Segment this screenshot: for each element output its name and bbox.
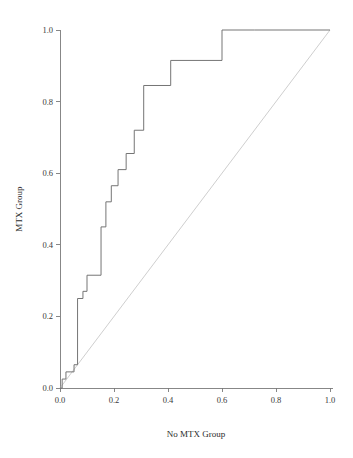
axes-group xyxy=(60,30,333,388)
y-axis-tick-labels: 0.00.20.40.60.81.0 xyxy=(42,25,53,393)
y-tick-label: 0.2 xyxy=(42,311,53,321)
y-tick-label: 0.4 xyxy=(42,240,53,250)
y-tick-label: 0.0 xyxy=(42,383,53,393)
x-tick-label: 0.4 xyxy=(163,395,174,405)
x-axis-ticks xyxy=(60,388,330,392)
x-tick-label: 0.6 xyxy=(217,395,228,405)
y-tick-label: 1.0 xyxy=(42,25,53,35)
x-tick-label: 1.0 xyxy=(325,395,336,405)
y-axis-title: MTX Group xyxy=(14,186,24,232)
x-axis-title: No MTX Group xyxy=(167,429,226,439)
x-axis-tick-labels: 0.00.20.40.60.81.0 xyxy=(55,395,336,405)
x-tick-label: 0.0 xyxy=(55,395,66,405)
y-axis-ticks xyxy=(56,30,60,388)
x-tick-label: 0.8 xyxy=(271,395,282,405)
y-tick-label: 0.6 xyxy=(42,168,53,178)
reference-diagonal-line xyxy=(60,30,330,388)
chart-canvas: 0.00.20.40.60.81.0 0.00.20.40.60.81.0 No… xyxy=(0,0,353,458)
x-tick-label: 0.2 xyxy=(109,395,120,405)
pp-plot-figure: 0.00.20.40.60.81.0 0.00.20.40.60.81.0 No… xyxy=(0,0,353,458)
y-tick-label: 0.8 xyxy=(42,97,53,107)
